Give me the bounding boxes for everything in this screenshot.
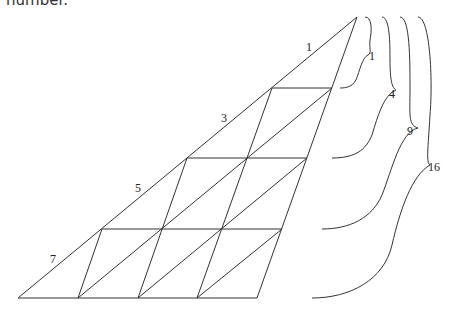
side-label-1: 1 (306, 40, 312, 54)
triangle-diagram: 1 3 5 7 1 4 9 16 (0, 0, 455, 312)
grid-lines (18, 17, 357, 298)
side-label-7: 7 (50, 252, 56, 266)
side-label-5: 5 (135, 181, 141, 195)
brace-label-1: 1 (369, 49, 375, 63)
brace-label-9: 9 (407, 124, 413, 138)
brace-label-16: 16 (428, 160, 440, 174)
brace-label-4: 4 (389, 87, 395, 101)
side-label-3: 3 (221, 111, 227, 125)
